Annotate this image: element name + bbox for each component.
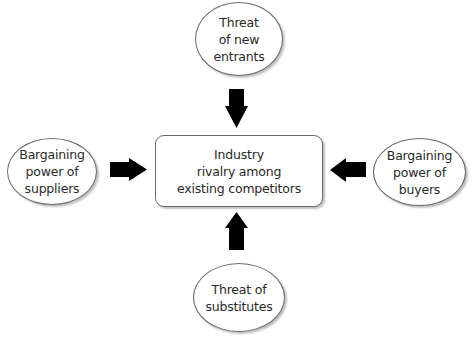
force-label: Bargaining power of suppliers: [19, 146, 84, 197]
force-label: Threat of new entrants: [213, 14, 264, 65]
force-label: Threat of substitutes: [206, 281, 273, 315]
center-label: Industry rivalry among existing competit…: [177, 146, 301, 197]
force-bargaining-power-of-buyers: Bargaining power of buyers: [373, 138, 466, 206]
force-threat-of-new-entrants: Threat of new entrants: [195, 2, 283, 76]
force-threat-of-substitutes: Threat of substitutes: [193, 263, 285, 332]
force-label: Bargaining power of buyers: [387, 147, 452, 198]
industry-rivalry-box: Industry rivalry among existing competit…: [155, 135, 323, 207]
arrow-down-icon: [225, 89, 248, 128]
arrow-left-icon: [330, 158, 366, 182]
force-bargaining-power-of-suppliers: Bargaining power of suppliers: [7, 138, 97, 205]
arrow-right-icon: [110, 158, 147, 181]
arrow-up-icon: [225, 212, 248, 250]
